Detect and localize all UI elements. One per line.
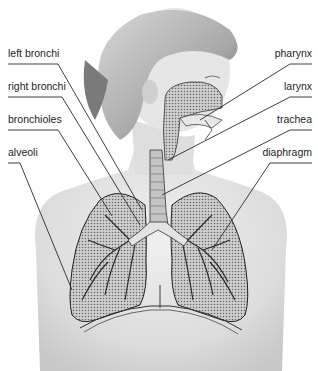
label-larynx: larynx xyxy=(284,80,312,92)
label-bronchioles: bronchioles xyxy=(8,113,62,125)
label-right-bronchi: right bronchi xyxy=(8,80,66,92)
label-pharynx: pharynx xyxy=(275,47,312,59)
label-alveoli: alveoli xyxy=(8,146,38,158)
label-trachea: trachea xyxy=(277,113,312,125)
label-diaphragm: diaphragm xyxy=(262,146,312,158)
label-left-bronchi: left bronchi xyxy=(8,47,59,59)
respiratory-diagram: left bronchi right bronchi bronchioles a… xyxy=(0,0,318,371)
